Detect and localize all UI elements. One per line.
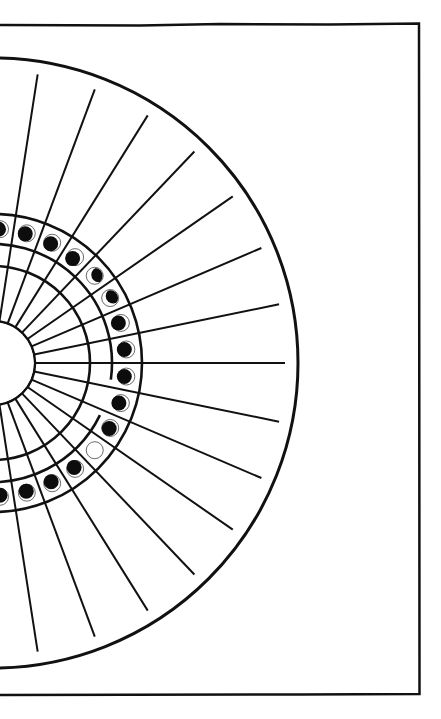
hub-fill xyxy=(0,322,34,403)
moon-phase-icon xyxy=(65,459,85,479)
moon-phase-icon xyxy=(85,440,105,460)
moon-phase-icon xyxy=(116,367,136,387)
moon-phase-icon xyxy=(116,339,136,359)
spoke-line xyxy=(0,405,38,652)
moon-phase-icon xyxy=(100,288,121,308)
moon-phase-icon xyxy=(111,313,131,333)
spoke-line xyxy=(0,74,38,321)
moon-phase-icon xyxy=(42,473,62,493)
spoke-line xyxy=(8,89,95,323)
spoke-line xyxy=(8,402,95,636)
moon-phase-icon xyxy=(42,233,62,253)
moon-phase-icon xyxy=(0,487,10,507)
moon-shadow-icon xyxy=(44,474,59,489)
lunar-phase-wheel xyxy=(0,0,441,719)
moon-shadow-icon xyxy=(18,226,33,241)
moon-phase-icon xyxy=(0,219,10,239)
moon-shadow-icon xyxy=(117,369,132,384)
moon-outline-icon xyxy=(86,442,103,459)
moon-phase-icon xyxy=(65,247,85,267)
moon-shadow-icon xyxy=(117,342,132,357)
frame-border xyxy=(0,24,420,696)
moon-phase-icon xyxy=(17,483,37,503)
moon-phase-icon xyxy=(17,223,37,243)
moon-shadow-icon xyxy=(111,396,126,411)
moon-shadow-icon xyxy=(67,460,82,475)
moon-shadow-icon xyxy=(102,421,117,436)
moon-phase-icon xyxy=(111,393,131,413)
moon-shadow-icon xyxy=(19,484,34,499)
moon-shadow-icon xyxy=(111,315,126,330)
moon-shadow-icon xyxy=(65,251,80,266)
moon-phase-icon xyxy=(85,266,107,286)
moon-phase-icon xyxy=(100,418,120,438)
moon-shadow-icon xyxy=(43,236,58,251)
